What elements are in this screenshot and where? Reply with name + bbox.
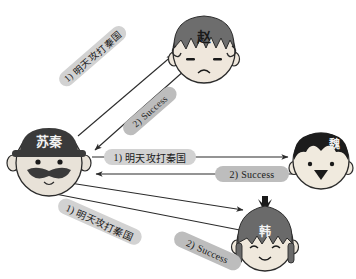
actor-wei-label: 魏 [328,137,340,150]
message-number: 1) [62,71,75,84]
message-text: Success [241,169,274,180]
message-label-wei-command[interactable]: 1) 明天攻打秦国 [104,149,196,165]
message-number: 2) [130,116,143,129]
actor-zhao[interactable]: 赵 [169,16,240,83]
message-number: 2) [230,169,239,180]
message-text: 明天攻打秦国 [125,150,186,165]
diagram-canvas: 苏秦 赵 [0,0,356,279]
actor-wei[interactable]: 魏 [289,133,353,189]
actor-suqin-label: 苏秦 [36,134,63,149]
message-number: 1) [114,152,123,163]
actor-zhao-label: 赵 [196,29,212,45]
message-label-wei-success[interactable]: 2) Success [215,166,289,182]
actor-suqin[interactable]: 苏秦 [7,128,91,196]
actor-han[interactable]: 韩 [232,196,299,271]
actor-han-label: 韩 [259,224,271,239]
message-number: 1) [64,202,76,216]
arrow-suqin-to-han [70,183,243,210]
message-number: 2) [185,237,197,251]
